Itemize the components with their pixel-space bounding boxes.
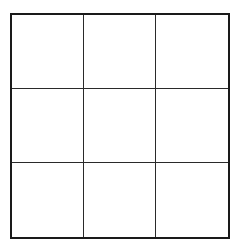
grid-cell-r2-c1[interactable] [12, 89, 84, 163]
grid-cell-r2-c3[interactable] [156, 89, 228, 163]
three-by-three-grid [10, 13, 230, 239]
grid-cell-r3-c2[interactable] [84, 163, 156, 237]
grid-cell-r1-c2[interactable] [84, 15, 156, 89]
grid-cell-r1-c3[interactable] [156, 15, 228, 89]
grid-cell-r3-c1[interactable] [12, 163, 84, 237]
grid-cell-r3-c3[interactable] [156, 163, 228, 237]
grid-cell-r2-c2[interactable] [84, 89, 156, 163]
grid-cell-r1-c1[interactable] [12, 15, 84, 89]
